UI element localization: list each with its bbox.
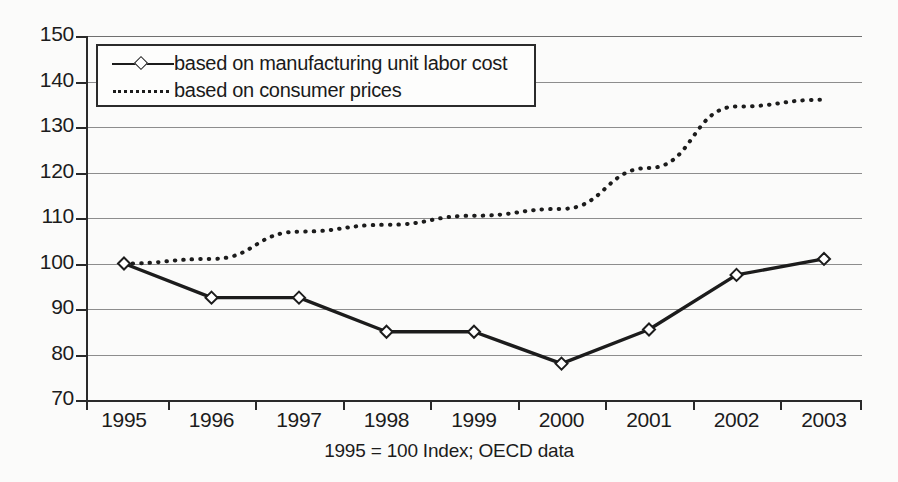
gridline-70 [86, 400, 862, 402]
gridline-150 [86, 36, 862, 37]
data-point-marker-2001 [643, 323, 655, 335]
gridline-80 [86, 355, 862, 356]
series-manufacturing-ulc-markers [118, 253, 830, 370]
x-axis-end-tick-left [86, 400, 88, 410]
y-tick-110 [76, 218, 87, 220]
y-tick-150 [76, 36, 87, 38]
x-tick-label-1998: 1998 [342, 408, 432, 432]
legend-item-consumer-prices: based on consumer prices [112, 77, 534, 104]
x-tick-label-2003: 2003 [779, 408, 869, 432]
data-point-marker-2000 [556, 358, 568, 370]
legend-label-consumer-prices: based on consumer prices [174, 79, 401, 102]
y-tick-label-110: 110 [12, 204, 74, 228]
legend-label-manufacturing-ulc: based on manufacturing unit labor cost [174, 52, 507, 75]
y-tick-140 [76, 82, 87, 84]
data-point-marker-1999 [468, 326, 480, 338]
y-tick-label-150: 150 [12, 22, 74, 46]
data-point-marker-2002 [731, 269, 743, 281]
x-tick-label-2001: 2001 [604, 408, 694, 432]
gridline-110 [86, 218, 862, 219]
chart-caption: 1995 = 100 Index; OECD data [0, 440, 898, 462]
gridline-90 [86, 309, 862, 310]
y-tick-80 [76, 355, 87, 357]
x-tick-label-1997: 1997 [254, 408, 344, 432]
x-tick-label-2000: 2000 [517, 408, 607, 432]
chart-figure: 150140130120110100908070 199519961997199… [0, 0, 898, 482]
series-manufacturing-ulc [124, 259, 824, 364]
y-tick-100 [76, 264, 87, 266]
data-point-marker-1996 [206, 292, 218, 304]
x-tick-label-1995: 1995 [79, 408, 169, 432]
gridline-100 [86, 264, 862, 265]
y-tick-label-130: 130 [12, 113, 74, 137]
y-tick-label-90: 90 [12, 295, 74, 319]
x-tick-label-2002: 2002 [692, 408, 782, 432]
y-tick-90 [76, 309, 87, 311]
gridline-120 [86, 173, 862, 174]
x-tick-label-1996: 1996 [167, 408, 257, 432]
y-tick-130 [76, 127, 87, 129]
y-tick-label-70: 70 [12, 386, 74, 410]
x-tick-label-1999: 1999 [429, 408, 519, 432]
legend-item-manufacturing-ulc: based on manufacturing unit labor cost [112, 50, 534, 77]
gridline-130 [86, 127, 862, 128]
y-tick-label-140: 140 [12, 68, 74, 92]
data-point-marker-1997 [293, 292, 305, 304]
consumer-prices-line [124, 100, 824, 264]
dotted-line-icon [112, 81, 174, 101]
y-tick-label-120: 120 [12, 159, 74, 183]
y-tick-label-100: 100 [12, 250, 74, 274]
y-tick-120 [76, 173, 87, 175]
chart-legend: based on manufacturing unit labor cost b… [96, 44, 536, 107]
manufacturing-ulc-line [124, 259, 824, 364]
data-point-marker-1998 [381, 326, 393, 338]
x-axis-end-tick-right [860, 400, 862, 410]
solid-diamond-line-icon [112, 54, 174, 74]
series-consumer-prices [124, 100, 824, 264]
y-tick-label-80: 80 [12, 341, 74, 365]
